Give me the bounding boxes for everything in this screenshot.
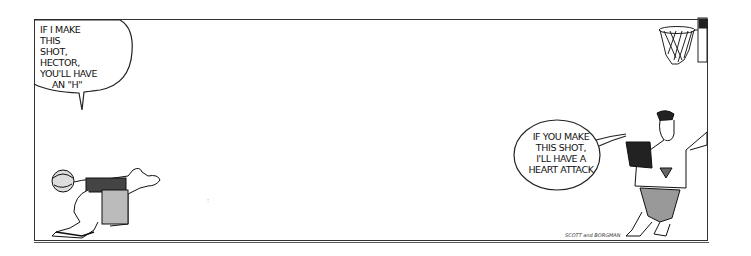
artist-signature: SCOTT and BORGMAN — [565, 232, 620, 238]
comic-artwork: : — [0, 0, 751, 256]
speech-text-right: IF YOU MAKE THIS SHOT, I'LL HAVE A HEART… — [526, 131, 596, 175]
hector-character — [626, 111, 707, 236]
jeremy-character — [52, 168, 160, 238]
speech-text-left: IF I MAKE THIS SHOT, HECTOR, YOU'LL HAVE… — [40, 24, 100, 90]
basketball-hoop — [659, 18, 707, 64]
stray-mark: : — [207, 196, 209, 203]
